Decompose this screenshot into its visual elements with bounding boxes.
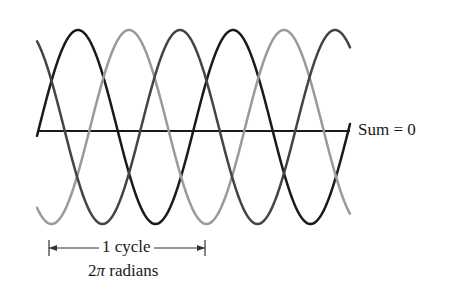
pi-symbol: π	[97, 261, 106, 280]
radians-unit: radians	[105, 261, 158, 280]
two-pi-radians-label: 2π radians	[88, 261, 158, 281]
arrow-right-icon	[197, 245, 205, 251]
radians-coefficient: 2	[88, 261, 97, 280]
one-cycle-label: 1 cycle	[99, 237, 154, 257]
three-phase-waveform-diagram	[0, 0, 457, 289]
arrow-left-icon	[49, 245, 57, 251]
sum-equals-zero-label: Sum = 0	[358, 120, 416, 140]
